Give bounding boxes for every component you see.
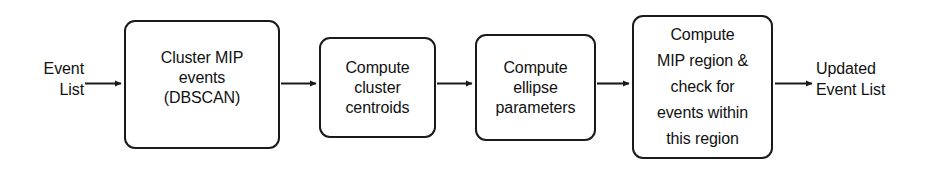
input-label-event-list: Event List <box>14 58 84 100</box>
output-label-updated-event-list: Updated Event List <box>816 58 928 100</box>
node-compute-mip-region-check[interactable]: Compute MIP region & check for events wi… <box>632 15 773 159</box>
node-label: Compute ellipse parameters <box>492 58 580 118</box>
node-label: Compute MIP region & check for events wi… <box>653 22 752 152</box>
node-compute-ellipse-parameters[interactable]: Compute ellipse parameters <box>475 34 596 141</box>
node-label: Compute cluster centroids <box>341 58 413 118</box>
flowchart-diagram: Event List Cluster MIP events (DBSCAN) C… <box>0 0 929 173</box>
node-label: Cluster MIP events (DBSCAN) <box>157 48 247 108</box>
node-compute-cluster-centroids[interactable]: Compute cluster centroids <box>319 37 436 138</box>
node-cluster-mip-events[interactable]: Cluster MIP events (DBSCAN) <box>124 20 280 149</box>
